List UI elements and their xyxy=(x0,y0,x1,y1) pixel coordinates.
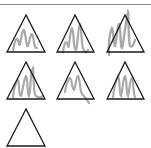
triangle-outline-7 xyxy=(7,109,45,146)
triangle-6 xyxy=(107,62,144,99)
triangle-7 xyxy=(7,109,45,146)
triangle-4 xyxy=(7,62,45,99)
scribble-2 xyxy=(63,24,88,52)
triangle-3 xyxy=(107,12,144,55)
triangle-5 xyxy=(57,62,94,103)
scribble-3 xyxy=(109,12,135,55)
triangle-1 xyxy=(7,15,45,52)
triangles-drawing xyxy=(0,0,151,148)
triangle-outline-2 xyxy=(57,15,94,52)
triangle-2 xyxy=(57,15,94,52)
scribble-4 xyxy=(13,68,43,98)
